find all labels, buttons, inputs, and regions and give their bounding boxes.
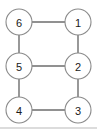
- graph-canvas: 6 1 5 2 4 3: [0, 0, 97, 130]
- node-2[interactable]: 2: [65, 53, 91, 79]
- node-label-2: 2: [75, 61, 81, 73]
- node-label-5: 5: [16, 61, 22, 73]
- graph-diagram: 6 1 5 2 4 3: [0, 0, 97, 130]
- node-label-4: 4: [16, 105, 22, 117]
- node-label-1: 1: [75, 17, 81, 29]
- node-label-3: 3: [75, 105, 81, 117]
- node-5[interactable]: 5: [6, 53, 32, 79]
- node-label-6: 6: [16, 17, 22, 29]
- node-4[interactable]: 4: [6, 97, 32, 123]
- node-1[interactable]: 1: [65, 9, 91, 35]
- node-3[interactable]: 3: [65, 97, 91, 123]
- node-6[interactable]: 6: [6, 9, 32, 35]
